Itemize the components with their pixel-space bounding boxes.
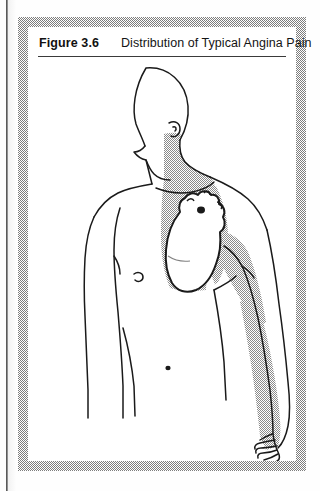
anatomical-figure-svg [28,60,296,461]
angina-illustration [28,60,296,461]
figure-caption: Figure 3.6 Distribution of Typical Angin… [28,31,296,55]
ear-inner-detail [173,127,176,131]
left-flank-line [214,290,226,400]
figure-number-label: Figure 3.6 [39,36,99,50]
aortic-root-marking [197,207,205,214]
nipple-marking [134,273,143,282]
anterior-neck [146,160,152,184]
right-flank-line [123,328,135,416]
figure-content-area: Figure 3.6 Distribution of Typical Angin… [28,27,296,461]
figure-page: Figure 3.6 Distribution of Typical Angin… [0,0,320,491]
right-arm-outer-edge [84,217,94,418]
right-shoulder-slope [94,184,152,217]
page-gutter-shadow [8,0,17,491]
figure-frame: Figure 3.6 Distribution of Typical Angin… [18,17,306,471]
right-arm-inner-edge [114,208,123,418]
pain-distribution-shading [28,60,296,461]
figure-title-text: Distribution of Typical Angina Pain [121,36,312,50]
navel-marking [165,366,170,370]
caption-divider [38,56,286,57]
finger-2 [264,454,278,460]
